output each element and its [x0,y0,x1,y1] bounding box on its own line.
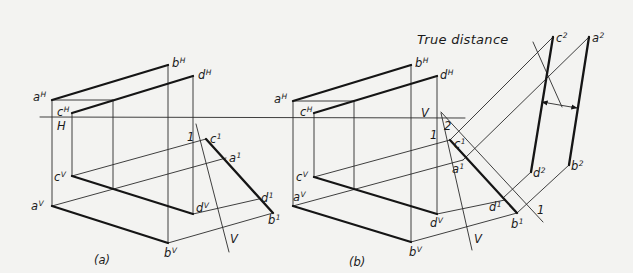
label-base: a [31,199,38,213]
label-superscript: H [41,90,47,99]
label-a-ref-1: 1 [187,130,194,144]
label-b-cV: cV [296,170,309,184]
label-base: 1 [187,130,194,144]
thick-line [531,37,553,172]
thin-line [40,117,465,118]
thick-line [314,76,437,113]
label-superscript: 2 [600,31,605,40]
label-base: b [164,246,171,260]
label-base: b [409,245,416,259]
object-lines [52,37,589,243]
thin-line [293,160,463,206]
label-b-a2: a2 [592,31,605,45]
ground-line-label-v: V [421,106,430,120]
label-superscript: V [39,199,45,208]
label-b-c2: c2 [556,31,568,45]
label-a-aV: aV [31,199,45,213]
label-base: V [230,232,239,246]
thick-line [72,176,193,214]
true-distance-dimension-arrow [542,102,577,108]
thin-line [411,213,517,242]
label-superscript: 1 [237,151,242,160]
label-base: a [229,151,236,165]
thick-line [52,206,168,243]
thin-line [463,37,589,160]
label-b-ref-2: 2 [444,119,451,133]
thick-line [293,206,411,242]
label-base: a [33,90,40,104]
label-b-bH: bH [415,56,429,70]
descriptive-geometry-figure: aHbHdHcH1c1a1d1b1cVaVdVbVVaHbHdHcH12c1a1… [0,0,633,273]
label-superscript: H [307,105,313,114]
label-base: a [452,162,459,176]
label-base: 2 [444,119,451,133]
label-base: V [474,232,483,246]
label-b-cH: cH [300,105,313,119]
label-superscript: 2 [563,31,568,40]
label-superscript: H [206,68,212,77]
label-a-ref-V: V [230,232,239,246]
label-b-d1: d1 [489,200,502,214]
label-a-bH: bH [172,56,186,70]
label-base: b [268,213,275,227]
label-base: 1 [430,128,437,142]
ground-line-label-h: H [57,119,66,133]
label-base: d [261,191,269,205]
label-b-ref-1: 1 [430,128,437,142]
label-b-aV: aV [293,190,307,204]
label-superscript: V [417,245,423,254]
label-superscript: 2 [579,159,584,168]
label-base: b [511,217,518,231]
label-b-a1: a1 [452,162,464,176]
label-a-c1: c1 [210,132,222,146]
thick-line [293,65,411,101]
label-a-aH: aH [33,90,47,104]
label-a-a1: a1 [229,151,241,165]
label-base: d [489,200,497,214]
thin-line [72,139,206,176]
label-superscript: 1 [269,191,274,200]
label-base: d [196,201,204,215]
label-a-cV: cV [54,170,67,184]
label-superscript: V [172,246,178,255]
label-base: d [440,68,448,82]
label-superscript: 2 [541,166,546,175]
label-a-d1: d1 [261,191,274,205]
label-base: 1 [537,203,544,217]
label-a-dV: dV [196,201,210,215]
label-base: b [571,159,578,173]
label-superscript: H [64,105,70,114]
label-b-ref-V: V [474,232,483,246]
label-base: d [533,166,541,180]
label-base: a [592,31,599,45]
label-a-bV: bV [164,246,178,260]
label-b-b2: b2 [571,159,584,173]
caption-a: (a) [94,253,110,267]
label-b-aH: aH [274,92,288,106]
label-b-c1: c1 [454,137,466,151]
thick-line [569,37,589,165]
thin-line [52,158,226,206]
label-superscript: V [438,216,444,225]
label-b-dV: dV [430,216,444,230]
label-base: b [415,56,422,70]
label-superscript: H [282,92,288,101]
label-superscript: V [303,170,309,179]
label-superscript: V [61,170,67,179]
thick-line [72,76,193,113]
construction-lines [40,37,589,252]
thick-line [52,65,168,100]
thin-line [314,140,450,177]
label-superscript: 1 [461,137,466,146]
caption-b: (b) [349,255,365,269]
label-b-d2: d2 [533,166,546,180]
label-b-dH: dH [440,68,454,82]
label-superscript: H [448,68,454,77]
label-superscript: 1 [217,132,222,141]
label-superscript: 1 [519,217,524,226]
label-superscript: 1 [276,213,281,222]
label-base: d [430,216,438,230]
label-superscript: V [204,201,210,210]
label-superscript: V [301,190,307,199]
true-distance-annotation: True distance [417,32,509,47]
